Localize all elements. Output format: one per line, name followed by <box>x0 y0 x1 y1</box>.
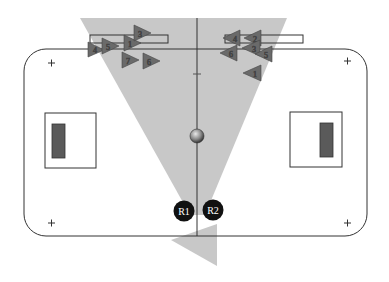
corner-mark-bottom-right <box>344 220 351 227</box>
svg-text:1: 1 <box>253 70 257 79</box>
svg-text:3: 3 <box>138 30 142 39</box>
robot-r1: R1 <box>174 201 195 222</box>
corner-mark-bottom-left <box>48 220 55 227</box>
svg-text:6: 6 <box>147 58 151 67</box>
svg-text:4: 4 <box>93 46 97 55</box>
robot-r1-label: R1 <box>178 206 190 217</box>
left-goal <box>45 113 96 168</box>
robot-r2: R2 <box>203 200 224 221</box>
left-goal-fill <box>52 124 65 158</box>
svg-text:5: 5 <box>106 43 110 52</box>
svg-text:4: 4 <box>233 35 237 44</box>
ball <box>190 129 204 143</box>
svg-text:3: 3 <box>252 45 256 54</box>
bottom-view-cone <box>171 224 217 266</box>
right-goal <box>290 112 342 167</box>
svg-text:7: 7 <box>126 57 130 66</box>
svg-text:6: 6 <box>229 50 233 59</box>
svg-text:1: 1 <box>128 40 132 49</box>
robot-r2-label: R2 <box>207 205 219 216</box>
corner-mark-top-left <box>48 60 55 67</box>
corner-mark-top-right <box>344 58 351 65</box>
svg-text:5: 5 <box>264 51 268 60</box>
right-goal-fill <box>320 123 333 157</box>
field-diagram: 4 5 1 3 7 6 4 2 3 6 5 1 R1 R2 <box>0 0 389 282</box>
